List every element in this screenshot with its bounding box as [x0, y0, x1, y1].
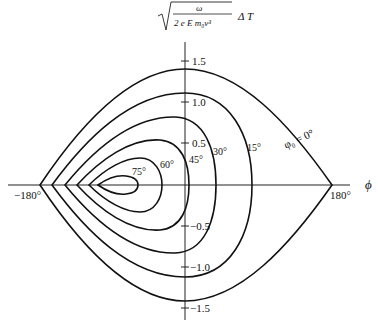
curve-label-75deg: 75°: [132, 166, 146, 177]
phase-diagram: 1.5 1.0 0.5 −0.5 −1.0 −1.5 −180° 180° ϕ …: [0, 0, 378, 324]
curve-label-45deg: 45°: [189, 154, 203, 165]
ylabel-suffix: Δ T: [237, 10, 254, 22]
tick-label: −180°: [14, 189, 41, 201]
tick-label: 0.5: [192, 137, 206, 149]
tick-label: −1.0: [190, 261, 210, 273]
tick-label: −1.5: [190, 302, 210, 314]
diagram-canvas: 1.5 1.0 0.5 −0.5 −1.0 −1.5 −180° 180° ϕ …: [0, 0, 378, 324]
curve-label-15deg: 15°: [247, 142, 261, 153]
y-axis-label: ω 2 e E m₀v³ Δ T: [158, 2, 254, 30]
curve-label-60deg: 60°: [160, 159, 174, 170]
ylabel-numerator: ω: [196, 3, 202, 13]
curve-label-0deg: φ₀ = 0°: [282, 126, 316, 150]
curve-label-30deg: 30°: [213, 146, 227, 157]
tick-label: 180°: [330, 189, 351, 201]
ylabel-denominator: 2 e E m₀v³: [174, 18, 211, 28]
phi-axis-label: ϕ: [365, 177, 372, 192]
tick-label: 1.5: [192, 55, 206, 67]
tick-label: 1.0: [192, 96, 206, 108]
tick-label: −0.5: [190, 220, 210, 232]
